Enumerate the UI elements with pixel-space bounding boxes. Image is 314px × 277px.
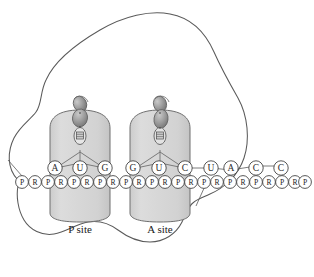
trna-p-site-acceptor-box (77, 132, 84, 139)
mrna-backbone-row: PRPRPRPRPRPRPRPRPRPRPRP (16, 176, 312, 189)
mrna-base-letter: G (102, 163, 109, 173)
phosphate-letter: P (98, 178, 102, 187)
mrna-base-letter: U (77, 163, 84, 173)
mrna-left-tail (8, 160, 22, 176)
diagram-canvas: AUGGUCUACC PRPRPRPRPRPRPRPRPRPRPRP P sit… (0, 0, 314, 277)
mrna-base-letter: C (278, 163, 284, 173)
ribosome-body-path (9, 13, 247, 242)
p-site-label: P site (68, 223, 92, 235)
phosphate-letter: P (72, 178, 76, 187)
mrna-base-letter: U (208, 163, 215, 173)
phosphate-letter: P (20, 178, 24, 187)
trna-a-site-acceptor-box (157, 132, 164, 139)
mrna-base-letter: C (253, 163, 259, 173)
phosphate-letter: P (46, 178, 50, 187)
trna-a-site (130, 95, 190, 222)
trna-p-site-amino-acid-chain (71, 94, 89, 144)
phosphate-letter: P (303, 178, 307, 187)
phosphate-letter: P (280, 178, 284, 187)
phosphate-letter: P (124, 178, 128, 187)
ribosome-translation-figure: AUGGUCUACC PRPRPRPRPRPRPRPRPRPRPRP P sit… (0, 0, 314, 277)
ribosome-outline (9, 13, 247, 242)
mrna-bottom-tick (196, 186, 205, 206)
phosphate-letter: P (150, 178, 154, 187)
trna-p-site (50, 94, 110, 222)
phosphate-letter: P (176, 178, 180, 187)
mrna-base-letter: C (182, 163, 188, 173)
mrna-base-letter: G (130, 163, 137, 173)
mrna-base-letter: A (228, 163, 235, 173)
a-site-label: A site (147, 223, 172, 235)
mrna-base-letter: A (52, 163, 59, 173)
phosphate-letter: P (202, 178, 206, 187)
phosphate-letter: P (228, 178, 232, 187)
mrna-base-letter: U (156, 163, 163, 173)
phosphate-letter: P (254, 178, 258, 187)
